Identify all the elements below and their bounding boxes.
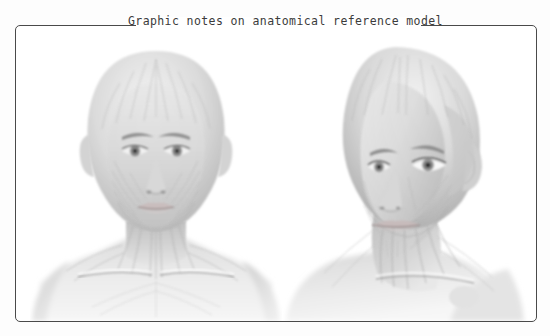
page-root: Graphic notes on anatomical reference mo… [0, 0, 550, 336]
figure-anterior-view [30, 25, 282, 321]
note-card-frame [15, 25, 537, 322]
figure-group [16, 26, 536, 321]
figure-three-quarter-view [268, 25, 536, 321]
note-card-title: Graphic notes on anatomical reference mo… [128, 14, 428, 28]
